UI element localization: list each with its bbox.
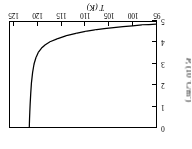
plot-area <box>9 21 157 128</box>
y-tick-label-4: 4 <box>161 39 165 46</box>
x-tick-label-95: 95 <box>154 12 161 19</box>
y-tick-5 <box>152 20 157 21</box>
x-axis-title-text: T (K) <box>87 3 105 12</box>
y-axis-unit-prefix: (10 <box>185 66 191 77</box>
y-tick-3 <box>152 63 157 64</box>
y-axis-unit-suffix: C/m <box>185 82 191 96</box>
rotated-figure-container: 95100105110115120125 012345 T (K) P, (10… <box>0 0 191 149</box>
y-tick-label-5: 5 <box>161 17 165 24</box>
y-tick-2 <box>152 84 157 85</box>
y-axis-title: P, (10-4C/m2) <box>184 27 191 134</box>
y-tick-label-1: 1 <box>161 103 165 110</box>
y-tick-label-3: 3 <box>161 60 165 67</box>
x-tick-95 <box>156 21 157 26</box>
x-tick-100 <box>132 21 133 26</box>
x-tick-115 <box>61 21 62 26</box>
x-tick-label-100: 100 <box>128 12 139 19</box>
polarization-curve <box>10 22 156 127</box>
x-tick-120 <box>37 21 38 26</box>
y-tick-label-0: 0 <box>161 124 165 131</box>
x-tick-label-120: 120 <box>32 12 43 19</box>
x-tick-110 <box>84 21 85 26</box>
y-tick-1 <box>152 106 157 107</box>
x-tick-label-125: 125 <box>9 12 20 19</box>
y-tick-0 <box>152 127 157 128</box>
x-tick-105 <box>108 21 109 26</box>
y-axis-unit-close: ) <box>185 99 191 102</box>
chart-figure: 95100105110115120125 012345 T (K) P, (10… <box>0 0 191 149</box>
x-tick-label-105: 105 <box>104 12 115 19</box>
x-tick-label-115: 115 <box>56 12 66 19</box>
x-tick-125 <box>13 21 14 26</box>
y-tick-4 <box>152 41 157 42</box>
x-axis-title: T (K) <box>0 3 191 11</box>
y-tick-label-2: 2 <box>161 82 165 89</box>
x-tick-label-110: 110 <box>80 12 90 19</box>
y-axis-title-wrapper: P, (10-4C/m2) <box>173 27 192 134</box>
